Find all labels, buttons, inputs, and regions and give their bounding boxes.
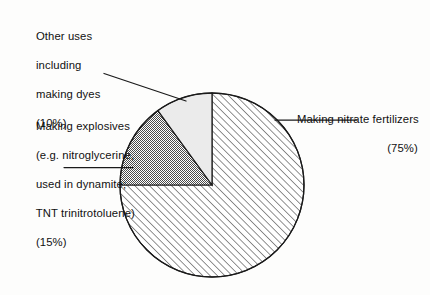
label-explosives-percent: (15%) xyxy=(36,236,67,248)
leader-line-other-uses xyxy=(104,74,186,102)
label-explosives-line3: used in dynamite; xyxy=(36,178,126,190)
label-explosives: Making explosives (e.g. nitroglycerine, … xyxy=(23,104,135,265)
label-explosives-line2: (e.g. nitroglycerine, xyxy=(36,149,134,161)
label-other-uses-line1: Other uses xyxy=(36,30,92,42)
pie-chart-figure: Other uses including making dyes (10%) M… xyxy=(0,0,430,295)
label-nitrate-fertilizers: Making nitrate fertilizers (75%) xyxy=(284,97,419,185)
label-explosives-line4: TNT trinitrotoluene) xyxy=(36,207,135,219)
label-nitrate-fertilizers-percent: (75%) xyxy=(284,141,419,156)
label-other-uses-line2: including xyxy=(36,59,82,71)
label-explosives-line1: Making explosives xyxy=(36,120,130,132)
label-nitrate-fertilizers-line1: Making nitrate fertilizers xyxy=(297,113,419,125)
label-other-uses-line3: making dyes xyxy=(36,88,101,100)
